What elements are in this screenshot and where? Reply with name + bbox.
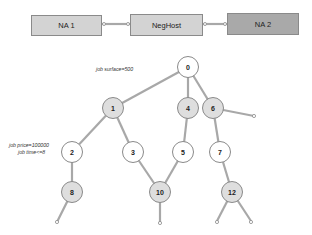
na2-label: NA 2 <box>255 20 271 29</box>
tree-node-3: 3 <box>122 141 144 163</box>
node-label: 1 <box>111 105 115 112</box>
node-label: 3 <box>131 149 135 156</box>
node-label: 4 <box>186 105 190 112</box>
tree-node-5: 5 <box>172 141 194 163</box>
node-label: 6 <box>211 105 215 112</box>
na2-box: NA 2 <box>227 13 299 35</box>
node-label: 12 <box>228 189 236 196</box>
node-label: 5 <box>181 149 185 156</box>
tree-node-7: 7 <box>209 141 231 163</box>
tree-node-12: 12 <box>221 181 243 203</box>
tree-node-0: 0 <box>177 56 199 78</box>
tree-node-2: 2 <box>61 141 83 163</box>
na1-label: NA 1 <box>58 21 74 30</box>
root-annotation: job surface=500 <box>96 66 133 72</box>
node2-annotation-line1: job price=100000 <box>9 142 49 148</box>
neghost-box: NegHost <box>130 14 203 36</box>
tree-node-6: 6 <box>202 97 224 119</box>
tree-node-4: 4 <box>177 97 199 119</box>
node-label: 2 <box>70 149 74 156</box>
node-label: 10 <box>156 189 164 196</box>
node-label: 0 <box>186 64 190 71</box>
tree-node-1: 1 <box>102 97 124 119</box>
node-label: 8 <box>70 189 74 196</box>
neghost-label: NegHost <box>152 21 181 30</box>
tree-node-10: 10 <box>149 181 171 203</box>
node-label: 7 <box>218 149 222 156</box>
na1-box: NA 1 <box>31 15 102 36</box>
tree-node-8: 8 <box>61 181 83 203</box>
node2-annotation-line2: job time<=8 <box>18 149 45 155</box>
